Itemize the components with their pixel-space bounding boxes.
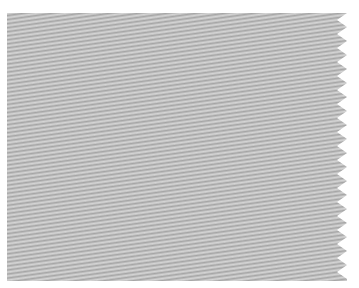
fabric-swatch-graphic — [7, 13, 347, 281]
fabric-swatch — [7, 13, 347, 281]
